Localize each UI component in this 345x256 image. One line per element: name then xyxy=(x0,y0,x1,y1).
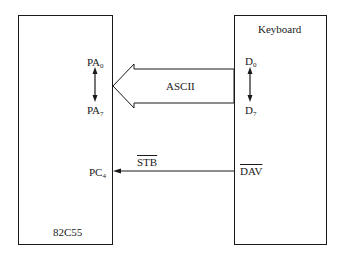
block-name-keyboard: Keyboard xyxy=(258,23,301,35)
ascii-bus-label: ASCII xyxy=(166,80,195,92)
pin-d7-label: D7 xyxy=(245,104,256,120)
d-range-arrow-icon xyxy=(248,67,253,102)
pin-dav-label: DAV xyxy=(240,165,262,177)
pin-d0-label: D0 xyxy=(245,55,256,71)
pa-range-arrow-icon xyxy=(93,67,98,102)
strobe-label: STB xyxy=(137,156,157,168)
pin-pa0-label: PA0 xyxy=(87,56,104,72)
pin-pc4-label: PC4 xyxy=(89,166,106,182)
pin-pa7-label: PA7 xyxy=(87,104,104,120)
connections-graphic xyxy=(0,0,345,256)
strobe-arrow xyxy=(113,169,234,174)
block-name-82c55: 82C55 xyxy=(53,226,82,238)
